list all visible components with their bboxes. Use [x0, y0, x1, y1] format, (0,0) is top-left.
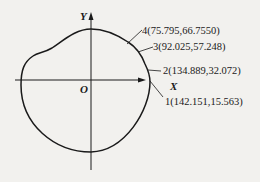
leader-line-1 — [150, 81, 163, 97]
x-axis-arrow-icon — [138, 78, 146, 83]
y-axis-arrow-icon — [89, 12, 94, 20]
cam-profile-diagram: Y X O 4(75.795,66.7550) 3(92.025,57.248)… — [0, 0, 260, 182]
diagram-canvas: Y X O 4(75.795,66.7550) 3(92.025,57.248)… — [0, 0, 260, 182]
leader-line-2 — [148, 70, 161, 71]
point-label-4: 4(75.795,66.7550) — [142, 25, 220, 37]
leader-line-4 — [127, 30, 142, 44]
point-label-2: 2(134.889,32.072) — [163, 65, 241, 77]
point-label-3: 3(92.025,57.248) — [153, 41, 226, 53]
x-axis-label: X — [169, 80, 178, 92]
leader-line-3 — [138, 47, 153, 52]
y-axis-label: Y — [80, 10, 88, 22]
point-label-1: 1(142.151,15.563) — [165, 96, 243, 108]
origin-label: O — [80, 83, 88, 95]
